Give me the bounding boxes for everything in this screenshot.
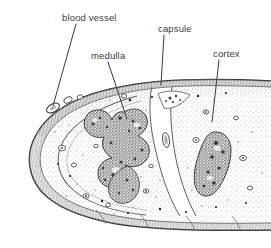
leader-blood-vessel <box>53 24 76 106</box>
label-medulla: medulla <box>91 51 125 61</box>
label-cortex: cortex <box>213 49 240 59</box>
label-capsule: capsule <box>158 24 192 34</box>
label-blood-vessel: blood vessel <box>62 13 117 23</box>
histology-drawing <box>0 0 271 248</box>
leader-capsule <box>161 35 164 85</box>
histology-figure: blood vessel medulla capsule cortex <box>0 0 271 248</box>
